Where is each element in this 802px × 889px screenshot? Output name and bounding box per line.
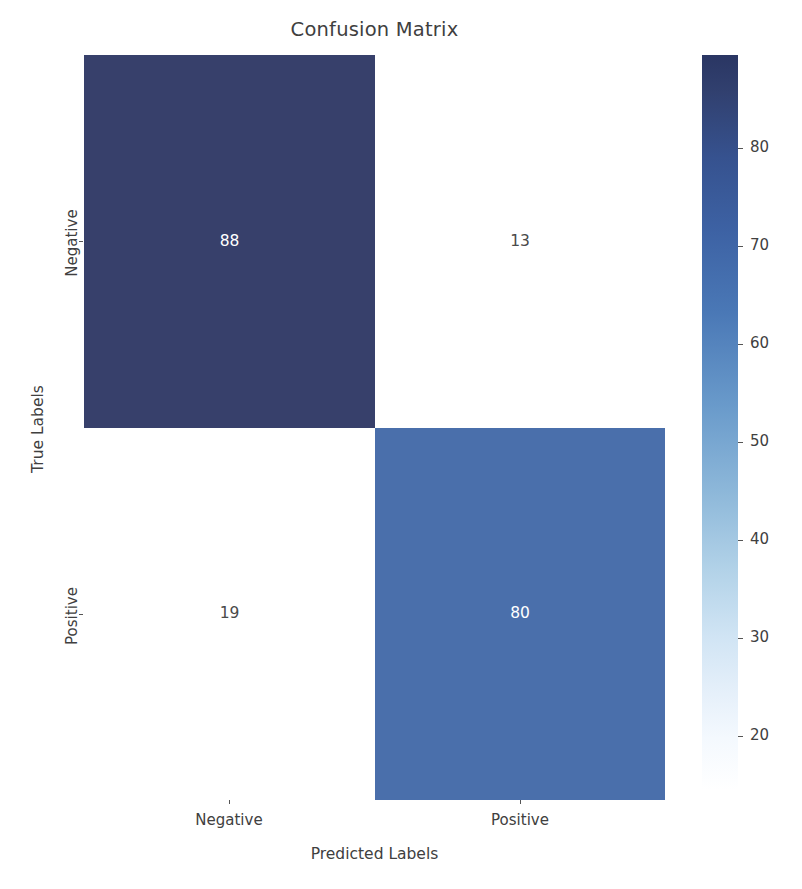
colorbar-tick-label-40: 40 <box>750 530 769 548</box>
colorbar-tick-mark-50 <box>738 442 743 443</box>
heatmap-cell-false-positive: 13 <box>375 55 665 428</box>
heatmap-cell-value: 13 <box>375 234 665 250</box>
colorbar-tick-mark-20 <box>738 736 743 737</box>
colorbar-tick-label-50: 50 <box>750 432 769 450</box>
chart-title: Confusion Matrix <box>84 18 665 41</box>
x-tick-label-positive: Positive <box>440 811 600 829</box>
colorbar-tick-label-30: 30 <box>750 628 769 646</box>
heatmap-cell-value: 88 <box>84 234 375 250</box>
colorbar-tick-label-20: 20 <box>750 726 769 744</box>
heatmap-cell-true-negative: 88 <box>84 55 375 428</box>
colorbar-tick-mark-70 <box>738 246 743 247</box>
colorbar-tick-label-70: 70 <box>750 236 769 254</box>
y-axis-title: True Labels <box>29 349 47 509</box>
x-tick-label-negative: Negative <box>149 811 309 829</box>
y-tick-label-negative: Negative <box>63 163 81 323</box>
colorbar-tick-mark-40 <box>738 540 743 541</box>
heatmap-cell-value: 80 <box>375 606 665 622</box>
x-tick-mark-negative <box>229 800 230 804</box>
y-tick-label-positive: Positive <box>63 536 81 696</box>
colorbar-tick-mark-80 <box>738 148 743 149</box>
confusion-matrix-figure: Confusion Matrix 88 13 19 80 Negative Po… <box>0 0 802 889</box>
x-axis-title: Predicted Labels <box>84 845 665 863</box>
heatmap-plot-area: 88 13 19 80 <box>84 55 665 800</box>
heatmap-cell-false-negative: 19 <box>84 428 375 800</box>
heatmap-cell-value: 19 <box>84 606 375 622</box>
colorbar-tick-mark-60 <box>738 344 743 345</box>
heatmap-cell-true-positive: 80 <box>375 428 665 800</box>
colorbar-tick-mark-30 <box>738 638 743 639</box>
x-tick-mark-positive <box>520 800 521 804</box>
colorbar-gradient <box>702 55 738 790</box>
colorbar-tick-label-80: 80 <box>750 138 769 156</box>
colorbar: 80 70 60 50 40 30 20 <box>702 55 738 790</box>
colorbar-tick-label-60: 60 <box>750 334 769 352</box>
